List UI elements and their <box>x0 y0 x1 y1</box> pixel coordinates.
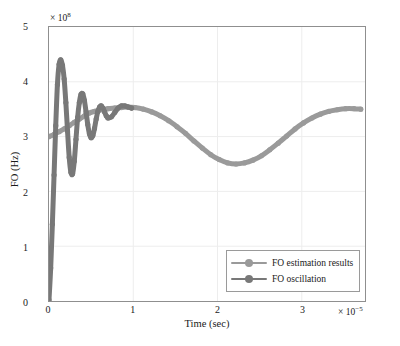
series-fo-oscillation <box>49 57 134 301</box>
x-tick-label: 3 <box>292 304 312 315</box>
legend-label-oscillation: FO oscillation <box>272 274 326 284</box>
y-tick-label: 1 <box>4 241 28 252</box>
legend-marker-icon-oscillation <box>231 273 267 285</box>
y-multiplier-base: × 10 <box>50 13 67 23</box>
y-tick-label: 2 <box>4 186 28 197</box>
y-tick-label: 0 <box>4 297 28 308</box>
legend-dot-estimation <box>245 259 253 267</box>
y-axis-title: FO (Hz) <box>9 110 20 230</box>
chart-legend: FO estimation results FO oscillation <box>226 250 360 292</box>
y-tick-label: 3 <box>4 131 28 142</box>
y-axis-multiplier: × 108 <box>50 11 71 23</box>
legend-marker-icon-estimation <box>231 257 267 269</box>
x-multiplier-exponent: −5 <box>355 305 362 313</box>
x-tick-label: 1 <box>123 304 143 315</box>
legend-dot-oscillation <box>245 275 253 283</box>
y-tick-label: 5 <box>4 21 28 32</box>
legend-item-estimation: FO estimation results <box>231 255 353 271</box>
x-axis-title: Time (sec) <box>48 318 366 329</box>
x-axis-multiplier: × 10−5 <box>338 305 363 317</box>
y-tick-label: 4 <box>4 76 28 87</box>
chart-figure: × 108 × 10−5 FO (Hz) Time (sec) 012345 0… <box>0 0 400 346</box>
x-tick-label: 0 <box>38 304 58 315</box>
legend-item-oscillation: FO oscillation <box>231 271 353 287</box>
y-multiplier-exponent: 8 <box>67 11 71 19</box>
x-multiplier-base: × 10 <box>338 307 355 317</box>
legend-label-estimation: FO estimation results <box>272 258 353 268</box>
x-tick-label: 2 <box>208 304 228 315</box>
